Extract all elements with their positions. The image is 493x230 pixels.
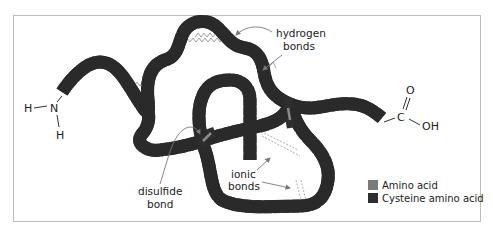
legend-label-cysteine: Cysteine amino acid [382, 193, 484, 204]
ionic-arrow-2 [262, 182, 290, 188]
hydrogen-arrow-1 [236, 27, 272, 35]
ionic-bonds [258, 130, 307, 205]
ionic-arrow-1 [257, 158, 270, 170]
legend-swatch-cysteine [368, 193, 378, 203]
legend-label-amino-acid: Amino acid [382, 180, 438, 191]
hydrogen-bonds-label-line2: bonds [283, 40, 315, 52]
ionic-bonds-label-line2: bonds [228, 180, 260, 192]
hydrogen-bonds-label-line1: hydrogen [276, 27, 326, 39]
disulfide-bond-label-line2: bond [147, 198, 173, 210]
legend-swatch-amino-acid [368, 180, 378, 190]
polypeptide-chain [62, 21, 382, 206]
h-atom-label-2: H [56, 129, 64, 142]
n-terminus: N H H [24, 96, 64, 142]
n-atom-label: N [50, 102, 58, 115]
h-atom-label: H [24, 102, 32, 115]
o-atom-label: O [406, 84, 415, 97]
c-atom-label: C [397, 111, 405, 124]
oh-label: OH [422, 120, 439, 133]
c-terminus: C O OH [384, 84, 439, 133]
disulfide-bond-label-line1: disulfide [138, 185, 182, 197]
ionic-bonds-label-line1: ionic [231, 168, 256, 180]
protein-diagram: N H H C O OH hydrogen bonds disulfide bo… [0, 0, 493, 230]
legend: Amino acid Cysteine amino acid [368, 180, 484, 204]
